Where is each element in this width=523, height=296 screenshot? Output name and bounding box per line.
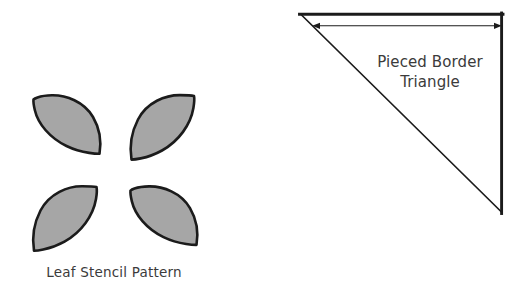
petal-bottom-right-shape (130, 186, 197, 245)
pieced-border-label-line1: Pieced Border (377, 53, 483, 71)
petal-top-left-shape (33, 95, 100, 154)
leaf-stencil-group: Leaf Stencil Pattern (33, 95, 197, 280)
leaf-stencil-caption: Leaf Stencil Pattern (46, 264, 181, 280)
pieced-border-label-line2: Triangle (399, 73, 460, 91)
quilt-pattern-figure: Leaf Stencil Pattern Pi (0, 0, 523, 296)
pieced-border-group: Pieced Border Triangle (300, 13, 504, 214)
petal-bottom-left-shape (33, 186, 97, 251)
diagram-canvas: Leaf Stencil Pattern Pi (0, 0, 523, 296)
petal-top-right-shape (131, 95, 194, 160)
